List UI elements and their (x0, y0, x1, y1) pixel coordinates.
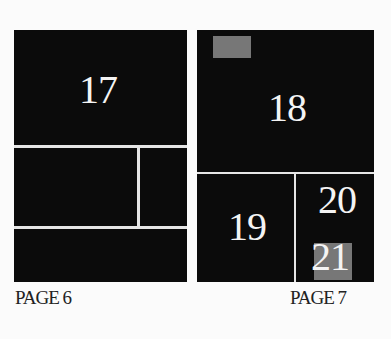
panel-number-18: 18 (268, 88, 306, 128)
panel-number-21: 21 (311, 237, 349, 277)
page-6-label: PAGE 6 (15, 288, 71, 307)
page-7-label: PAGE 7 (290, 288, 346, 307)
highlight-box-top (213, 36, 251, 58)
page-7-horizontal-gutter (197, 172, 374, 174)
page-7-vertical-gutter (294, 173, 296, 282)
panel-number-20: 20 (318, 180, 356, 220)
panel-number-19: 19 (228, 207, 266, 247)
panel-number-17: 17 (79, 70, 117, 110)
page-6-horizontal-gutter-1 (14, 145, 187, 148)
page-6-horizontal-gutter-2 (14, 226, 187, 229)
page-6-vertical-gutter (137, 147, 140, 227)
